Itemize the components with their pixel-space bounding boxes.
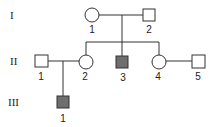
individual-ii3-affected-male — [116, 56, 128, 68]
generation-label-1: I — [10, 9, 14, 21]
label-i1: 1 — [89, 24, 95, 35]
label-ii2: 2 — [82, 71, 88, 82]
label-iii1: 1 — [60, 113, 66, 124]
label-ii5: 5 — [195, 71, 201, 82]
individual-ii1-male — [35, 55, 48, 67]
pedigree-diagram: I II III 1 2 1 2 3 4 5 1 — [0, 0, 214, 127]
label-ii3: 3 — [120, 72, 126, 83]
generation-label-2: II — [10, 55, 18, 67]
individual-i2-male — [143, 9, 155, 21]
individual-ii2-female — [79, 55, 93, 69]
generation-label-3: III — [8, 96, 19, 108]
individual-iii1-affected-male — [57, 96, 69, 108]
label-ii1: 1 — [38, 71, 44, 82]
label-i2: 2 — [146, 24, 152, 35]
individual-ii4-female — [152, 55, 166, 69]
individual-i1-female — [85, 8, 99, 22]
label-ii4: 4 — [155, 71, 161, 82]
individual-ii5-male — [192, 55, 205, 68]
